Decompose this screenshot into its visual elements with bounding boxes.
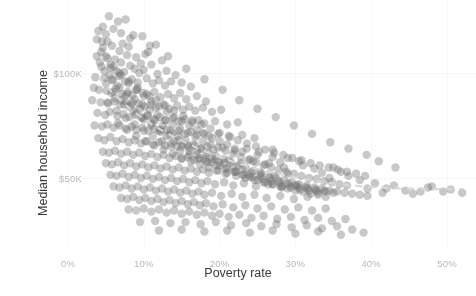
x-axis-title: Poverty rate (0, 266, 476, 280)
y-axis-title: Median household income (36, 28, 50, 258)
scatter-chart: $100K $50K 0% 10% 20% 30% 40% 50% Povert… (0, 0, 476, 296)
y-axis-title-anchor: Median household income (14, 0, 15, 296)
y-axis-tick-50k: $50K (59, 173, 82, 184)
y-axis-tick-100k: $100K (54, 68, 82, 79)
